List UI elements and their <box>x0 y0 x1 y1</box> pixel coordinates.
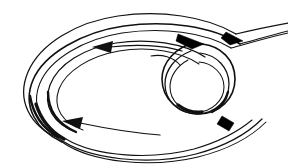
spiral-ribbon-illustration <box>0 0 288 168</box>
figure-canvas <box>0 0 288 168</box>
figure-background <box>0 0 288 168</box>
